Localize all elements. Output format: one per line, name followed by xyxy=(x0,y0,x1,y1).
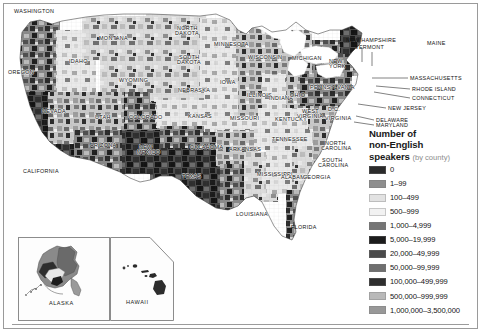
state-label-idaho: IDAHO xyxy=(69,59,88,64)
state-label-new-mexico-2: MEXICO xyxy=(137,150,160,155)
callout-label-maine: MAINE xyxy=(427,40,446,47)
alaska-svg xyxy=(19,238,109,320)
state-label-new-york-2: YORK xyxy=(329,64,346,69)
legend-swatch xyxy=(369,292,386,300)
callout-label-new-hampshire: NEW HAMPSHIRE xyxy=(346,37,396,44)
state-label-tennessee: TENNESSEE xyxy=(272,137,308,142)
legend-swatch xyxy=(369,306,386,314)
legend-row: 0 xyxy=(369,163,477,177)
legend-entries: 01–99100–499500–9991,000–4,9995,000–19,9… xyxy=(369,163,477,318)
legend-label: 1,000–4,999 xyxy=(390,221,431,230)
legend-row: 100–499 xyxy=(369,191,477,205)
state-label-ohio: OHIO xyxy=(290,93,305,98)
state-label-virginia: VIRGINIA xyxy=(325,116,351,121)
state-label-florida: FLORIDA xyxy=(291,225,317,230)
map-legend: Number of non-English speakers (by count… xyxy=(369,128,477,317)
legend-row: 1,000,000–3,500,000 xyxy=(369,303,477,317)
callout-label-connecticut: CONNECTICUT xyxy=(412,95,455,102)
legend-title-line2: non-English xyxy=(369,139,423,150)
legend-swatch xyxy=(369,194,386,202)
state-label-kansas: KANSAS xyxy=(188,114,212,119)
legend-title-line3: speakers xyxy=(369,151,410,162)
callout-label-new-jersey: NEW JERSEY xyxy=(388,105,426,112)
legend-swatch xyxy=(369,278,386,286)
legend-swatch xyxy=(369,166,386,174)
state-label-washington: WASHINGTON xyxy=(14,9,54,14)
state-label-oregon: OREGON xyxy=(8,70,34,75)
legend-label: 50,000–99,999 xyxy=(390,263,439,272)
state-label-texas: TEXAS xyxy=(182,174,201,179)
state-label-north-dakota-2: DAKOTA xyxy=(175,31,199,36)
legend-title: Number of non-English speakers (by count… xyxy=(369,128,477,163)
state-label-nevada: NEVADA xyxy=(42,109,66,114)
state-label-michigan: MICHIGAN xyxy=(292,56,322,61)
state-label-iowa: IOWA xyxy=(220,80,236,85)
callout-label-rhode-island: RHODE ISLAND xyxy=(412,86,456,93)
legend-row: 1–99 xyxy=(369,177,477,191)
state-label-arizona: ARIZONA xyxy=(90,143,116,148)
legend-label: 500–999 xyxy=(390,207,419,216)
legend-label: 1,000,000–3,500,000 xyxy=(390,306,460,315)
map-screenshot: WASHINGTON OREGON IDAHO MONTANA WYOMING … xyxy=(0,0,481,332)
legend-swatch xyxy=(369,264,386,272)
state-label-louisiana: LOUISIANA xyxy=(236,212,268,217)
state-label-north-carolina-2: CAROLINA xyxy=(321,146,351,151)
legend-label: 20,000–49,999 xyxy=(390,249,439,258)
state-label-south-dakota-2: DAKOTA xyxy=(177,60,201,65)
inset-caption-hawaii: HAWAII xyxy=(126,299,148,305)
legend-label: 100–499 xyxy=(390,193,419,202)
legend-row: 20,000–49,999 xyxy=(369,247,477,261)
state-label-oklahoma: OKLAHOMA xyxy=(190,145,223,150)
legend-row: 1,000–4,999 xyxy=(369,219,477,233)
state-label-minnesota: MINNESOTA xyxy=(214,42,249,47)
legend-row: 5,000–19,999 xyxy=(369,233,477,247)
legend-swatch xyxy=(369,222,386,230)
legend-label: 1–99 xyxy=(390,179,407,188)
inset-hawaii[interactable]: HAWAII xyxy=(110,237,174,321)
legend-label: 5,000–19,999 xyxy=(390,235,435,244)
legend-title-line1: Number of xyxy=(369,128,416,139)
state-label-montana: MONTANA xyxy=(99,36,128,41)
state-label-arkansas: ARKANSAS xyxy=(229,147,261,152)
state-label-south-carolina-2: CAROLINA xyxy=(318,163,348,168)
legend-swatch xyxy=(369,250,386,258)
legend-row: 500,000–999,999 xyxy=(369,289,477,303)
state-label-wyoming: WYOMING xyxy=(119,78,148,83)
legend-row: 500–999 xyxy=(369,205,477,219)
state-label-utah: UTAH xyxy=(95,115,111,120)
legend-label: 500,000–999,999 xyxy=(390,292,448,301)
state-label-california: CALIFORNIA xyxy=(23,169,59,174)
legend-row: 50,000–99,999 xyxy=(369,261,477,275)
state-label-dc: D.C. xyxy=(328,107,340,112)
legend-swatch xyxy=(369,236,386,244)
callout-label-massachusetts: MASSACHUSETTS xyxy=(410,75,462,82)
legend-title-subtitle: (by county) xyxy=(412,153,450,162)
state-label-georgia: GEORGIA xyxy=(303,175,331,180)
legend-label: 0 xyxy=(390,165,394,174)
inset-caption-alaska: ALASKA xyxy=(49,300,74,306)
state-label-colorado: COLORADO xyxy=(129,115,163,120)
legend-swatch xyxy=(369,180,386,188)
state-label-missouri: MISSOURI xyxy=(230,116,259,121)
inset-alaska[interactable]: ALASKA xyxy=(18,237,110,321)
bottom-divider xyxy=(12,324,469,325)
callout-label-vermont: VERMONT xyxy=(355,44,384,51)
state-label-nebraska: NEBRASKA xyxy=(178,88,210,93)
legend-label: 100,000–499,999 xyxy=(390,277,448,286)
legend-swatch xyxy=(369,208,386,216)
legend-row: 100,000–499,999 xyxy=(369,275,477,289)
state-label-pennsylvania: PENNSYLVANIA xyxy=(310,85,355,90)
state-label-wisconsin: WISCONSIN xyxy=(248,55,282,60)
state-label-west-virginia-2: VIRGINIA xyxy=(297,114,323,119)
hawaii-svg xyxy=(110,237,174,321)
